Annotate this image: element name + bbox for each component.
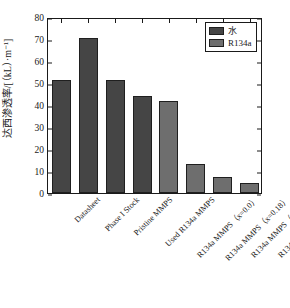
bar (79, 38, 98, 193)
legend-item[interactable]: R134a (209, 37, 252, 49)
bar (106, 80, 125, 193)
legend-swatch (209, 27, 224, 35)
y-tick-label: 30 (35, 124, 45, 134)
y-tick-label: 50 (35, 80, 45, 90)
y-tick-label: 60 (35, 58, 45, 68)
y-axis-title: 达西渗透率/[（kL）·m⁻¹] (0, 0, 16, 176)
bar-chart-figure: 达西渗透率/[（kL）·m⁻¹] 01020304050607080 Datas… (0, 0, 290, 308)
y-axis-title-text: 达西渗透率/[（kL）·m⁻¹] (0, 38, 15, 138)
bar (133, 96, 152, 193)
bar (186, 164, 205, 193)
bar-slot (156, 19, 183, 193)
bar (159, 101, 178, 193)
legend-label: R134a (228, 39, 252, 48)
y-tick-label: 40 (35, 102, 45, 112)
bar-slot (129, 19, 156, 193)
legend-item[interactable]: 水 (209, 25, 252, 37)
y-tick-label: 10 (35, 168, 45, 178)
x-tick-label: Datasheet (74, 196, 103, 225)
legend-swatch (209, 39, 224, 47)
y-tick-label: 70 (35, 36, 45, 46)
y-tick-label: 0 (39, 190, 44, 200)
bar (52, 80, 71, 193)
bar (213, 177, 232, 193)
chart-legend: 水R134a (205, 22, 257, 52)
bar-slot (75, 19, 102, 193)
y-tick-label: 20 (35, 146, 45, 156)
y-tick-label: 80 (35, 14, 45, 24)
bar (240, 183, 259, 193)
bar-slot (48, 19, 75, 193)
bar-slot (102, 19, 129, 193)
x-axis-tick-labels: DatasheetPhase I StockPristine MMPSUsed … (47, 196, 262, 308)
legend-label: 水 (228, 27, 237, 36)
